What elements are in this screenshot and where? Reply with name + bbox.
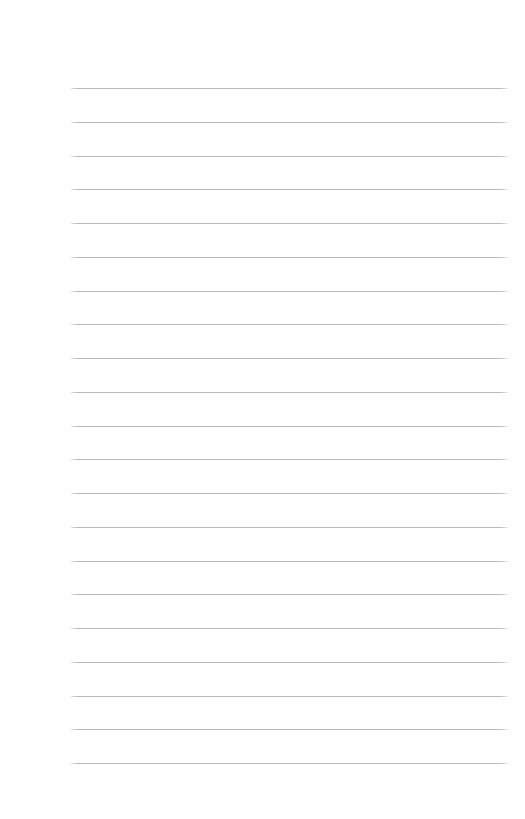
ruled-writing-area[interactable] [0, 0, 525, 819]
rule-line [71, 594, 508, 595]
rule-line [71, 459, 508, 460]
rule-line [71, 426, 508, 427]
rule-line [71, 122, 508, 123]
rule-line [71, 763, 508, 764]
rule-line [71, 561, 508, 562]
rule-line [71, 358, 508, 359]
rule-line [71, 662, 508, 663]
rule-line [71, 628, 508, 629]
notebook-page [0, 0, 525, 819]
rule-line [71, 324, 508, 325]
rule-line [71, 88, 508, 89]
rule-line [71, 156, 508, 157]
rule-line [71, 493, 508, 494]
rule-line [71, 189, 508, 190]
rule-line [71, 392, 508, 393]
rule-line [71, 291, 508, 292]
rule-line [71, 223, 508, 224]
rule-line [71, 257, 508, 258]
rule-line [71, 729, 508, 730]
rule-line [71, 696, 508, 697]
rule-line [71, 527, 508, 528]
